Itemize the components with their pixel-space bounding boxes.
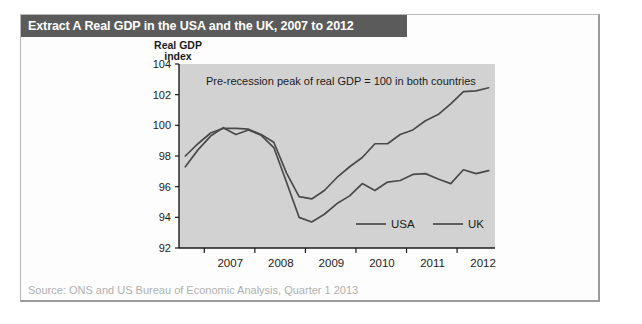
y-tick-label: 96	[159, 181, 171, 193]
x-tick-label: 2012	[470, 257, 496, 269]
x-axis-ticks: 200720082009201020112012	[204, 248, 496, 269]
legend-label-usa: USA	[391, 218, 415, 230]
x-tick-label: 2009	[319, 257, 345, 269]
y-tick-label: 94	[159, 211, 171, 223]
y-tick-label: 100	[153, 119, 171, 131]
x-tick-label: 2011	[420, 257, 445, 269]
source-note: Source: ONS and US Bureau of Economic An…	[28, 284, 358, 296]
chart-annotation: Pre-recession peak of real GDP = 100 in …	[206, 75, 476, 87]
y-tick-label: 98	[159, 150, 171, 162]
y-tick-label: 104	[153, 58, 171, 70]
figure-container: Extract A Real GDP in the USA and the UK…	[20, 14, 600, 302]
line-chart-svg: Real GDP index 92949698100102104 2007200…	[21, 37, 599, 277]
x-tick-label: 2007	[217, 257, 243, 269]
x-tick-label: 2008	[268, 257, 294, 269]
x-tick-label: 2010	[369, 257, 395, 269]
y-axis-ticks: 92949698100102104	[153, 58, 179, 254]
figure-title-bar: Extract A Real GDP in the USA and the UK…	[21, 15, 407, 37]
y-tick-label: 102	[153, 89, 171, 101]
chart-area: Real GDP index 92949698100102104 2007200…	[21, 37, 599, 277]
legend-label-uk: UK	[468, 218, 484, 230]
plot-background	[179, 64, 495, 248]
y-tick-label: 92	[159, 242, 171, 254]
